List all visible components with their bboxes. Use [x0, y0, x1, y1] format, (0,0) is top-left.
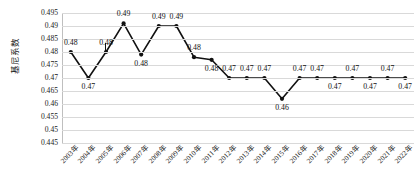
x-axis-tick-labels: 2003年2004年2005年2006年2007年2008年2009年2010年…	[62, 145, 414, 196]
data-point-label: 0.48	[134, 60, 148, 68]
y-tick-label: 0.445	[22, 139, 58, 147]
gridline	[62, 65, 414, 66]
gridline	[62, 143, 414, 144]
data-point-label: 0.49	[170, 13, 184, 21]
data-point-label: 0.47	[346, 65, 360, 73]
y-tick-label: 0.48	[22, 48, 58, 56]
data-point-label: 0.47	[381, 65, 395, 73]
y-tick-label: 0.485	[22, 35, 58, 43]
x-tick-label: 2008年	[148, 145, 168, 165]
y-axis-title: 基尼系数	[8, 16, 20, 96]
data-point-label: 0.47	[328, 83, 342, 91]
x-tick-label: 2014年	[253, 145, 273, 165]
data-point-label: 0.47	[293, 65, 307, 73]
x-tick-label: 2018年	[324, 145, 344, 165]
y-tick-label: 0.49	[22, 22, 58, 30]
x-tick-label: 2015年	[271, 145, 291, 165]
data-point-marker	[192, 55, 196, 59]
x-tick-label: 2010年	[183, 145, 203, 165]
y-axis-tick-labels: 0.4950.490.4850.480.4750.470.4650.460.45…	[22, 13, 58, 143]
gridline	[62, 130, 414, 131]
gridline	[62, 13, 414, 14]
data-point-label: 0.49	[152, 13, 166, 21]
gridline	[62, 52, 414, 53]
x-tick-label: 2013年	[236, 145, 256, 165]
x-tick-label: 2006年	[112, 145, 132, 165]
x-tick-label: 2017年	[306, 145, 326, 165]
data-point-label: 0.47	[82, 83, 96, 91]
x-tick-label: 2005年	[95, 145, 115, 165]
x-tick-label: 2021年	[376, 145, 396, 165]
y-tick-label: 0.46	[22, 100, 58, 108]
x-tick-label: 2003年	[60, 145, 80, 165]
data-point-marker	[210, 58, 214, 62]
data-point-label: 0.49	[117, 10, 131, 18]
data-point-marker	[122, 21, 126, 25]
data-point-label: 0.47	[240, 65, 254, 73]
y-tick-label: 0.455	[22, 113, 58, 121]
x-tick-label: 2016年	[288, 145, 308, 165]
label-leader-line	[105, 43, 106, 51]
x-tick-label: 2009年	[165, 145, 185, 165]
x-tick-label: 2007年	[130, 145, 150, 165]
data-point-label: 0.48	[205, 65, 219, 73]
data-point-label: 0.48	[99, 39, 113, 47]
data-point-marker	[280, 97, 284, 101]
x-tick-label: 2020年	[359, 145, 379, 165]
data-point-label: 0.47	[363, 83, 377, 91]
data-point-label: 0.47	[222, 65, 236, 73]
data-point-label: 0.48	[64, 39, 78, 47]
series-polyline	[71, 23, 405, 98]
gridline	[62, 26, 414, 27]
x-tick-label: 2022年	[394, 145, 414, 165]
gridline	[62, 104, 414, 105]
y-tick-label: 0.465	[22, 87, 58, 95]
data-point-label: 0.48	[187, 44, 201, 52]
gridline	[62, 78, 414, 79]
y-tick-label: 0.47	[22, 74, 58, 82]
x-tick-label: 2011年	[201, 145, 221, 165]
y-tick-label: 0.495	[22, 9, 58, 17]
data-point-label: 0.46	[275, 104, 289, 112]
data-point-marker	[139, 53, 143, 57]
gridline	[62, 39, 414, 40]
y-tick-label: 0.45	[22, 126, 58, 134]
x-tick-label: 2004年	[77, 145, 97, 165]
data-point-label: 0.47	[258, 65, 272, 73]
data-point-label: 0.47	[398, 83, 412, 91]
x-tick-label: 2012年	[218, 145, 238, 165]
gini-coefficient-line-chart: 基尼系数 0.4950.490.4850.480.4750.470.4650.4…	[0, 0, 419, 196]
gridline	[62, 91, 414, 92]
plot-area: 0.480.470.480.490.480.490.490.480.480.47…	[62, 13, 414, 143]
y-tick-label: 0.475	[22, 61, 58, 69]
x-tick-label: 2019年	[341, 145, 361, 165]
gridline	[62, 117, 414, 118]
data-point-label: 0.47	[310, 65, 324, 73]
